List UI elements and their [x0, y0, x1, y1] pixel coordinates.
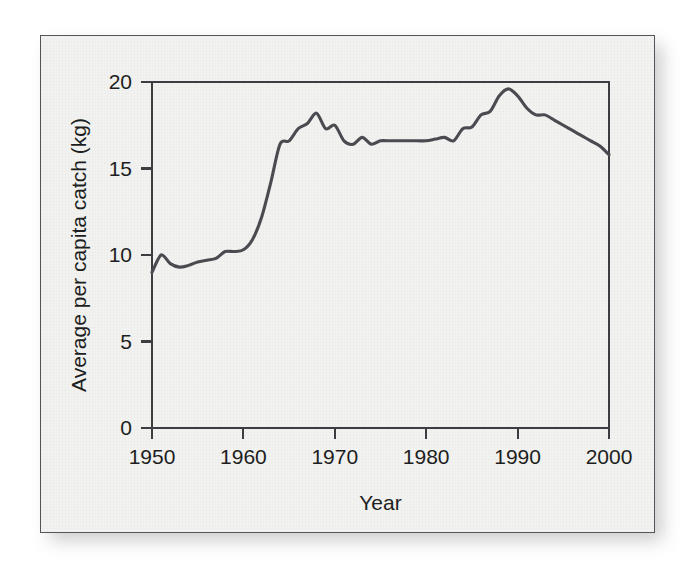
y-tick-label-0: 0	[120, 416, 132, 439]
x-tick-label-1960: 1960	[220, 445, 267, 468]
x-axis-title: Year	[359, 491, 401, 514]
x-tick-label-1950: 1950	[129, 445, 176, 468]
data-group	[152, 89, 609, 272]
y-axis-tick-labels: 05101520	[109, 70, 132, 439]
x-axis-tick-labels: 195019601970198019902000	[129, 445, 633, 468]
y-tick-label-10: 10	[109, 243, 132, 266]
x-tick-label-1980: 1980	[403, 445, 450, 468]
x-tick-label-2000: 2000	[586, 445, 633, 468]
y-axis-ticks	[141, 82, 152, 428]
figure-root: 05101520 195019601970198019902000 Year A…	[0, 0, 692, 577]
y-tick-label-15: 15	[109, 157, 132, 180]
y-axis-title: Average per capita catch (kg)	[67, 118, 90, 392]
x-tick-label-1990: 1990	[494, 445, 541, 468]
y-tick-label-20: 20	[109, 70, 132, 93]
x-tick-label-1970: 1970	[311, 445, 358, 468]
tick-labels-group: 05101520 195019601970198019902000	[109, 70, 633, 468]
y-tick-label-5: 5	[120, 330, 132, 353]
line-chart: 05101520 195019601970198019902000 Year A…	[0, 0, 692, 577]
catch-trend-line	[152, 89, 609, 272]
x-axis-ticks	[152, 428, 609, 439]
